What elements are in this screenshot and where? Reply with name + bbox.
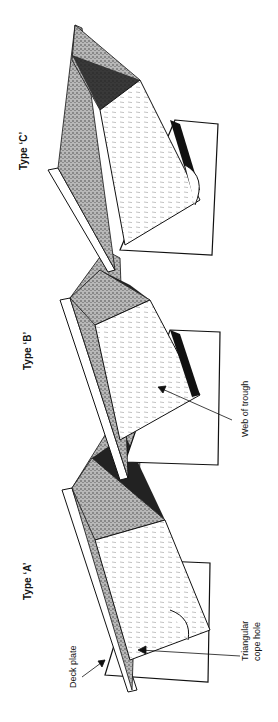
cope-hole-label-line2: cope hole <box>252 622 262 661</box>
trough-type-c <box>48 25 218 272</box>
trough-type-b <box>60 250 220 480</box>
web-of-trough-label: Web of trough <box>240 381 250 437</box>
trough-types-diagram <box>0 0 278 722</box>
type-a-label: Type ‘A’ <box>22 562 33 600</box>
deck-plate-label: Deck plate <box>68 645 78 688</box>
cope-hole-label-line1: Triangular <box>240 621 250 661</box>
type-b-label: Type ‘B’ <box>22 332 33 370</box>
type-c-label: Type ‘C’ <box>18 132 29 170</box>
